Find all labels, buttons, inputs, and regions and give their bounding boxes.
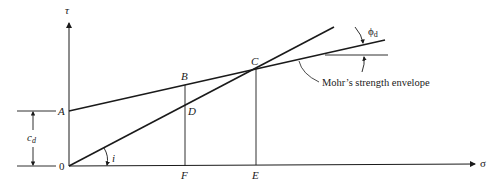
sigma-axis-label: σ bbox=[480, 157, 486, 169]
point-F-label: F bbox=[180, 169, 188, 181]
phi-arc-upper bbox=[355, 27, 363, 43]
point-D-label: D bbox=[187, 105, 196, 117]
annotation-leader bbox=[299, 61, 319, 82]
mohr-envelope-diagram: τ σ 0 A B C D E F cd i ϕd Mohr’s strengt… bbox=[0, 0, 497, 183]
sigma-axis bbox=[69, 164, 475, 166]
strength-envelope-line bbox=[69, 40, 385, 111]
cohesion-label: cd bbox=[27, 131, 37, 145]
tau-axis-label: τ bbox=[65, 4, 70, 16]
angle-i-arc bbox=[104, 148, 108, 165]
angle-i-label: i bbox=[112, 152, 115, 164]
origin-label: 0 bbox=[59, 160, 65, 172]
point-E-label: E bbox=[251, 169, 259, 181]
point-C-label: C bbox=[251, 55, 259, 67]
inclined-line-OC bbox=[69, 27, 334, 166]
point-A-label: A bbox=[57, 105, 65, 117]
phi-d-label: ϕd bbox=[368, 25, 378, 39]
envelope-annotation: Mohr’s strength envelope bbox=[322, 77, 430, 88]
point-B-label: B bbox=[181, 70, 188, 82]
phi-arc-lower bbox=[362, 57, 364, 72]
